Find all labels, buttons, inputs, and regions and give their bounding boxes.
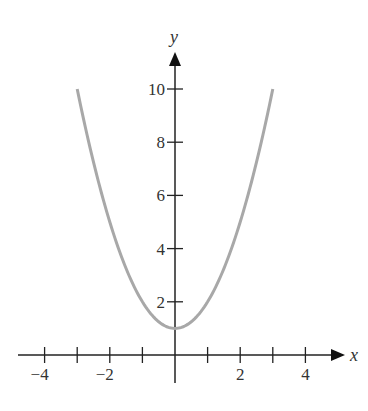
x-tick-label: 2 — [236, 365, 245, 384]
y-axis-arrow-icon — [169, 52, 181, 66]
axes — [18, 52, 345, 383]
tick-labels: −4−224246810 — [31, 80, 311, 384]
y-tick-label: 10 — [148, 80, 165, 99]
y-tick-label: 6 — [157, 186, 166, 205]
x-tick-label: 4 — [301, 365, 310, 384]
y-axis-label: y — [168, 27, 178, 47]
x-axis-label: x — [349, 345, 358, 365]
y-tick-label: 8 — [157, 133, 166, 152]
y-tick-label: 4 — [157, 240, 166, 259]
parabola-chart: −4−224246810 x y — [0, 0, 368, 411]
x-tick-label: −2 — [96, 365, 114, 384]
x-tick-label: −4 — [31, 365, 50, 384]
y-tick-label: 2 — [157, 293, 166, 312]
x-axis-arrow-icon — [331, 349, 345, 361]
